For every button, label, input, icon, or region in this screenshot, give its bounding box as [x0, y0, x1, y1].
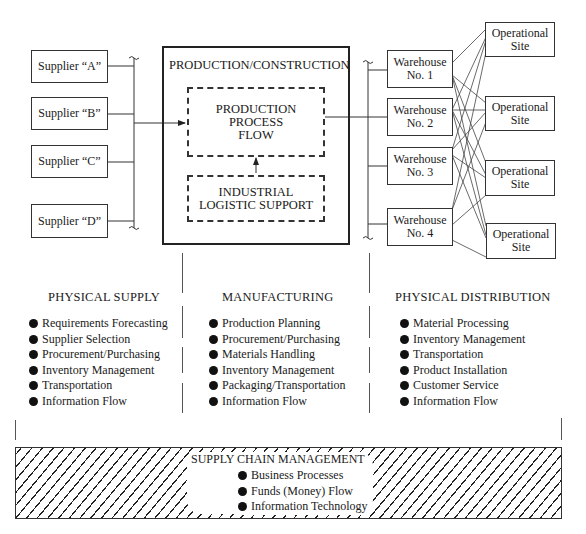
warehouse-number: No. 3: [407, 166, 434, 179]
list-item: Inventory Management: [29, 363, 168, 379]
bullet-icon: [29, 366, 38, 375]
bullet-icon: [209, 319, 218, 328]
supplier-c-box: Supplier “C”: [31, 145, 108, 178]
scm-bracket-right: [561, 418, 562, 440]
column-divider: [369, 253, 370, 293]
bullet-icon: [209, 381, 218, 390]
production-process-flow-box: PRODUCTION PROCESS FLOW: [187, 87, 325, 157]
manufacturing-list: Production Planning Procurement/Purchasi…: [209, 316, 346, 409]
column-divider: [182, 253, 183, 293]
site-label: Site: [511, 114, 530, 127]
production-title: PRODUCTION/CONSTRUCTION: [169, 58, 350, 73]
industrial-logistic-support-box: INDUSTRIAL LOGISTIC SUPPORT: [187, 175, 325, 222]
list-item-text: Supplier Selection: [42, 332, 130, 346]
scm-bracket-left: [15, 420, 16, 440]
site-label: Site: [511, 40, 530, 53]
site-label: Site: [511, 178, 530, 191]
bullet-icon: [400, 366, 409, 375]
list-item-text: Customer Service: [413, 378, 499, 392]
list-item: Supplier Selection: [29, 332, 168, 348]
bullet-icon: [29, 335, 38, 344]
process-flow-line: PRODUCTION: [216, 103, 297, 116]
list-item-text: Information Technology: [251, 499, 368, 513]
list-item-text: Packaging/Transportation: [222, 378, 346, 392]
bullet-icon: [238, 502, 247, 511]
list-item-text: Procurement/Purchasing: [42, 347, 160, 361]
list-item-text: Procurement/Purchasing: [222, 332, 340, 346]
warehouse-number: No. 2: [407, 117, 434, 130]
ils-line: LOGISTIC SUPPORT: [199, 199, 313, 212]
scm-title: SUPPLY CHAIN MANAGEMENT: [191, 452, 365, 467]
list-item: Customer Service: [400, 378, 525, 394]
scm-list: Business Processes Funds (Money) Flow In…: [238, 468, 370, 515]
process-flow-line: FLOW: [238, 129, 273, 142]
column-divider: [369, 306, 370, 338]
supplier-label: Supplier “A”: [38, 60, 101, 73]
supply-chain-management-band: SUPPLY CHAIN MANAGEMENT Business Process…: [15, 447, 562, 519]
warehouse-number: No. 1: [407, 69, 434, 82]
bullet-icon: [209, 335, 218, 344]
physical-distribution-list: Material Processing Inventory Management…: [400, 316, 525, 409]
list-item-text: Information Flow: [42, 394, 127, 408]
list-item: Information Flow: [400, 394, 525, 410]
list-item-text: Material Processing: [413, 316, 509, 330]
list-item: Product Installation: [400, 363, 525, 379]
list-item: Transportation: [29, 378, 168, 394]
list-item: Funds (Money) Flow: [238, 484, 370, 500]
bullet-icon: [400, 397, 409, 406]
bullet-icon: [238, 471, 247, 480]
column-divider: [182, 306, 183, 338]
supplier-label: Supplier “D”: [38, 215, 101, 228]
list-item: Packaging/Transportation: [209, 378, 346, 394]
operational-site-2-box: OperationalSite: [485, 96, 555, 131]
list-item-text: Information Flow: [222, 394, 307, 408]
site-label: Operational: [492, 101, 549, 114]
ils-line: INDUSTRIAL: [219, 186, 294, 199]
list-item: Material Processing: [400, 316, 525, 332]
list-item-text: Information Flow: [413, 394, 498, 408]
list-item-text: Transportation: [413, 347, 483, 361]
list-item: Transportation: [400, 347, 525, 363]
list-item-text: Transportation: [42, 378, 112, 392]
bullet-icon: [209, 397, 218, 406]
bullet-icon: [400, 319, 409, 328]
list-item: Materials Handling: [209, 347, 346, 363]
bullet-icon: [29, 381, 38, 390]
supplier-label: Supplier “B”: [38, 107, 100, 120]
operational-site-1-box: OperationalSite: [485, 22, 555, 57]
list-item: Business Processes: [238, 468, 370, 484]
process-flow-line: PROCESS: [229, 116, 283, 129]
list-item: Inventory Management: [400, 332, 525, 348]
bullet-icon: [400, 350, 409, 359]
bullet-icon: [29, 397, 38, 406]
supplier-d-box: Supplier “D”: [31, 204, 108, 238]
operational-site-3-box: OperationalSite: [485, 160, 555, 196]
manufacturing-title: MANUFACTURING: [222, 290, 333, 305]
warehouse-2-box: WarehouseNo. 2: [387, 98, 453, 136]
column-divider: [369, 383, 370, 413]
list-item: Procurement/Purchasing: [29, 347, 168, 363]
physical-supply-title: PHYSICAL SUPPLY: [48, 290, 160, 305]
supplier-label: Supplier “C”: [38, 155, 100, 168]
list-item: Procurement/Purchasing: [209, 332, 346, 348]
physical-distribution-title: PHYSICAL DISTRIBUTION: [395, 290, 550, 305]
warehouse-3-box: WarehouseNo. 3: [387, 147, 453, 185]
bullet-icon: [29, 350, 38, 359]
operational-site-4-box: OperationalSite: [486, 223, 556, 259]
bullet-icon: [238, 487, 247, 496]
list-item: Information Technology: [238, 499, 370, 515]
warehouse-1-box: WarehouseNo. 1: [387, 50, 453, 88]
bullet-icon: [400, 381, 409, 390]
list-item-text: Inventory Management: [42, 363, 154, 377]
bullet-icon: [209, 350, 218, 359]
list-item: Information Flow: [29, 394, 168, 410]
list-item-text: Inventory Management: [413, 332, 525, 346]
column-divider: [369, 347, 370, 373]
list-item-text: Materials Handling: [222, 347, 315, 361]
supplier-a-box: Supplier “A”: [31, 50, 108, 83]
site-label: Operational: [492, 27, 549, 40]
warehouse-number: No. 4: [407, 227, 434, 240]
warehouse-4-box: WarehouseNo. 4: [387, 208, 453, 246]
list-item: Information Flow: [209, 394, 346, 410]
list-item-text: Production Planning: [222, 316, 320, 330]
